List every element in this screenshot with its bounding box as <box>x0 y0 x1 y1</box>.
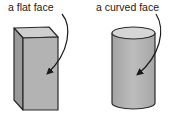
cylinder-body <box>112 33 155 109</box>
rectangular-prism <box>14 27 58 110</box>
prism-side-face <box>14 28 23 110</box>
prism-front-face <box>23 37 58 110</box>
diagram-canvas <box>0 0 172 119</box>
cylinder <box>112 27 155 109</box>
cylinder-top-face <box>112 27 155 39</box>
